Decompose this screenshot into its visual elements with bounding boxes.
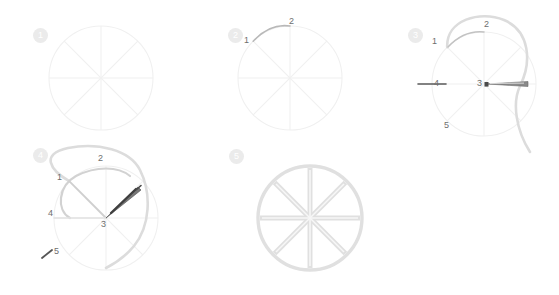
step-badge-3: 3 bbox=[408, 28, 423, 43]
step-4-panel: 4 1 2 bbox=[10, 140, 220, 295]
step-3-illustration bbox=[380, 0, 559, 160]
step-5-panel: 5 bbox=[220, 140, 400, 295]
thread-loop-inner bbox=[61, 169, 130, 219]
tutorial-canvas: 1 2 1 2 bbox=[0, 0, 559, 295]
point-label-5: 5 bbox=[54, 246, 59, 256]
thread-tick-at-5 bbox=[42, 250, 52, 258]
step-4-illustration bbox=[10, 140, 220, 295]
spoke-highlights bbox=[262, 170, 358, 266]
step-1-illustration bbox=[0, 0, 200, 148]
point-label-2: 2 bbox=[289, 16, 294, 26]
point-label-4: 4 bbox=[434, 78, 439, 88]
point-label-2: 2 bbox=[98, 153, 103, 163]
point-label-1: 1 bbox=[57, 172, 62, 182]
needle bbox=[485, 82, 529, 87]
step-3-panel: 3 1 2 3 4 5 bbox=[380, 0, 559, 148]
step-5-illustration bbox=[220, 140, 400, 295]
needle bbox=[106, 186, 141, 219]
point-label-3: 3 bbox=[101, 219, 106, 229]
step-2-panel: 2 1 2 bbox=[200, 0, 380, 148]
thread-stitch-1-to-2 bbox=[253, 26, 290, 42]
point-label-2: 2 bbox=[484, 19, 489, 29]
step-badge-5: 5 bbox=[229, 149, 244, 164]
step-1-panel: 1 bbox=[0, 0, 200, 148]
thread-stitch-1-to-2 bbox=[448, 32, 484, 47]
step-badge-2: 2 bbox=[228, 28, 243, 43]
point-label-4: 4 bbox=[48, 208, 53, 218]
step-badge-1: 1 bbox=[33, 28, 48, 43]
thread-spoke-1-to-center bbox=[69, 181, 106, 218]
point-label-1: 1 bbox=[432, 36, 437, 46]
point-label-3: 3 bbox=[477, 78, 482, 88]
point-label-5: 5 bbox=[444, 120, 449, 130]
step-badge-4: 4 bbox=[33, 148, 48, 163]
point-label-1: 1 bbox=[244, 35, 249, 45]
